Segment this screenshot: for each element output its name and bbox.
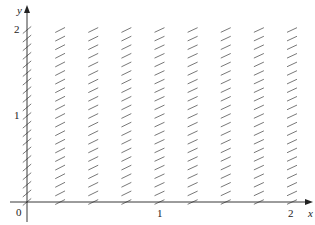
slope-segment <box>254 174 264 179</box>
slope-segment <box>155 62 165 67</box>
slope-segment <box>121 105 131 110</box>
slope-segment <box>88 131 98 136</box>
slope-segment <box>254 182 264 187</box>
slope-segment <box>287 114 297 119</box>
slope-segment <box>221 191 231 196</box>
slope-segment <box>55 191 65 196</box>
slope-segment <box>88 148 98 153</box>
slope-segment <box>254 105 264 110</box>
slope-segment <box>188 191 198 196</box>
slope-segment <box>55 96 65 101</box>
slope-segment <box>287 148 297 153</box>
slope-segment <box>254 88 264 93</box>
slope-segment <box>155 114 165 119</box>
slope-segment <box>254 191 264 196</box>
slope-segment <box>55 182 65 187</box>
slope-segment <box>254 53 264 58</box>
slope-segment <box>254 122 264 127</box>
slope-segment <box>88 45 98 50</box>
slope-segment <box>188 157 198 162</box>
slope-segment <box>121 45 131 50</box>
slope-segment <box>88 114 98 119</box>
slope-segment <box>287 88 297 93</box>
slope-segment <box>88 182 98 187</box>
slope-segment <box>55 114 65 119</box>
slope-segment <box>155 96 165 101</box>
slope-segment <box>155 148 165 153</box>
slope-segment <box>188 131 198 136</box>
slope-segment <box>155 28 165 33</box>
slope-segment <box>55 122 65 127</box>
slope-segment <box>188 139 198 144</box>
slope-segment <box>254 96 264 101</box>
slope-segment <box>287 45 297 50</box>
slope-segment <box>221 96 231 101</box>
slope-segment <box>287 182 297 187</box>
slope-segment <box>55 88 65 93</box>
slope-segment <box>121 36 131 41</box>
slope-segment <box>221 28 231 33</box>
slope-segment <box>121 79 131 84</box>
slope-segment <box>55 71 65 76</box>
slope-segment <box>188 96 198 101</box>
slope-segment <box>155 45 165 50</box>
slope-segment <box>221 62 231 67</box>
slope-segment <box>188 79 198 84</box>
slope-segment <box>188 53 198 58</box>
slope-segment <box>155 36 165 41</box>
slope-segment <box>287 53 297 58</box>
slope-segment <box>88 139 98 144</box>
slope-segment <box>121 148 131 153</box>
slope-segment <box>287 79 297 84</box>
slope-segment <box>221 148 231 153</box>
slope-segment <box>287 36 297 41</box>
slope-segment <box>254 131 264 136</box>
x-axis-arrowhead-icon <box>305 199 313 205</box>
slope-segment <box>55 28 65 33</box>
slope-segment <box>121 96 131 101</box>
slope-segment <box>121 71 131 76</box>
slope-segment <box>155 79 165 84</box>
slope-segment <box>88 71 98 76</box>
slope-segment <box>287 96 297 101</box>
slope-segment <box>121 157 131 162</box>
slope-segment <box>188 62 198 67</box>
x-tick-label-0: 0 <box>16 206 22 218</box>
slope-segment <box>55 157 65 162</box>
slope-segment <box>188 88 198 93</box>
slope-segment <box>88 122 98 127</box>
slope-segment <box>88 105 98 110</box>
slope-segment <box>221 114 231 119</box>
slope-segment <box>55 79 65 84</box>
slope-segment <box>121 165 131 170</box>
slope-segment <box>221 131 231 136</box>
slope-segment <box>88 79 98 84</box>
slope-segment <box>88 62 98 67</box>
slope-segment <box>121 53 131 58</box>
slope-segment <box>188 114 198 119</box>
slope-segment <box>55 165 65 170</box>
y-tick-label-2: 2 <box>14 23 20 35</box>
slope-segment <box>88 157 98 162</box>
slope-segment <box>287 157 297 162</box>
slope-segment <box>121 131 131 136</box>
direction-field-plot: 0 1 2 1 2 x y <box>0 0 315 225</box>
slope-segment <box>287 71 297 76</box>
slope-segment <box>88 174 98 179</box>
slope-segments <box>23 26 297 205</box>
slope-segment <box>155 182 165 187</box>
x-tick-label-1: 1 <box>157 207 163 219</box>
slope-segment <box>221 105 231 110</box>
slope-segment <box>188 174 198 179</box>
slope-segment <box>88 191 98 196</box>
slope-segment <box>221 88 231 93</box>
slope-segment <box>155 165 165 170</box>
slope-segment <box>221 139 231 144</box>
slope-segment <box>55 105 65 110</box>
slope-segment <box>55 131 65 136</box>
slope-segment <box>155 122 165 127</box>
slope-segment <box>155 53 165 58</box>
slope-segment <box>287 28 297 33</box>
x-tick-label-2: 2 <box>288 207 294 219</box>
slope-segment <box>287 122 297 127</box>
